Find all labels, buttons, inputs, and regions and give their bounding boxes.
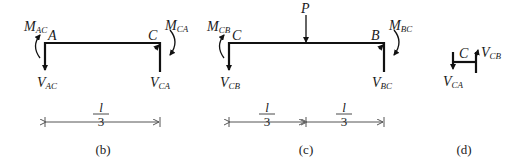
beam-ac — [45, 43, 160, 72]
free-body-diagrams: MAC A C MCA VAC VCA l 3 (b) P MCB C B MB… — [0, 0, 528, 167]
span-denominator: 3 — [264, 114, 271, 129]
node-label-a: A — [47, 28, 57, 43]
moment-label-mcb: MCB — [206, 19, 231, 35]
shear-label-vac: VAC — [37, 75, 58, 91]
node-label-c: C — [459, 46, 469, 61]
shear-label-vbc: VBC — [372, 75, 393, 91]
moment-arc-mac-icon — [36, 35, 41, 58]
moment-label-mbc: MBC — [388, 18, 413, 34]
caption-c: (c) — [299, 142, 313, 157]
shear-arrow-vca-icon — [155, 45, 159, 49]
span-numerator: l — [342, 100, 346, 115]
span-numerator: l — [265, 100, 269, 115]
caption-d: (d) — [456, 142, 471, 157]
moment-label-mac: MAC — [23, 19, 48, 35]
moment-arc-mca-icon — [170, 30, 175, 55]
shear-label-vcb: VCB — [220, 75, 241, 91]
figure-c: P MCB C B MBC VCB VBC l 3 l 3 (c) — [206, 1, 413, 157]
span-denominator: 3 — [341, 114, 348, 129]
node-label-b: B — [371, 28, 380, 43]
load-label-p: P — [300, 1, 310, 16]
moment-arc-mcb-icon — [220, 35, 225, 58]
figure-d: C VCB VCA (d) — [443, 45, 502, 157]
shear-label-vca: VCA — [150, 75, 171, 91]
beam-cb — [229, 43, 384, 72]
moment-label-mca: MCA — [164, 18, 189, 34]
node-label-c: C — [232, 28, 242, 43]
caption-b: (b) — [95, 142, 110, 157]
shear-label-vcb: VCB — [481, 45, 502, 61]
shear-label-vca: VCA — [443, 74, 464, 90]
figure-b: MAC A C MCA VAC VCA l 3 (b) — [23, 18, 189, 157]
moment-arc-mbc-icon — [394, 30, 399, 55]
shear-arrow-vbc-icon — [379, 45, 383, 49]
span-numerator: l — [99, 100, 103, 115]
span-denominator: 3 — [98, 114, 105, 129]
node-label-c: C — [148, 28, 158, 43]
